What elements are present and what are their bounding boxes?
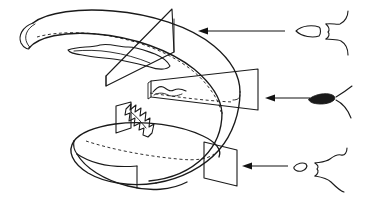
wavy-strip-outline <box>68 44 170 69</box>
jagged-inner-line <box>131 112 146 128</box>
tube-axis-dashed-lower <box>86 141 214 160</box>
cross-section-middle-wall-upper <box>336 86 352 97</box>
helix-outer-right <box>156 92 240 183</box>
tube-axis-dashed-middle <box>150 93 233 102</box>
spiral-tube <box>20 10 240 189</box>
helix-lower-left-wall <box>74 141 77 154</box>
helix-lower-top-ellipse <box>74 123 220 157</box>
plane-middle[interactable] <box>148 69 258 110</box>
tube-top-outer-edge <box>33 10 240 92</box>
arrow-middle <box>265 95 310 102</box>
inclusion-upper <box>68 44 170 69</box>
cross-section-middle <box>309 86 352 118</box>
cross-section-lower <box>294 148 347 192</box>
diagram-canvas <box>0 0 371 203</box>
cross-section-upper-lumen <box>296 26 321 37</box>
arrow-lower <box>242 163 288 170</box>
tube-axis-dashed-upper <box>37 33 221 112</box>
cross-section-upper-wall-lower <box>326 39 348 55</box>
cross-section-lower-wall-lower <box>315 176 344 192</box>
cross-section-lower-oval <box>294 163 307 171</box>
arrow-upper <box>198 28 285 35</box>
inclusion-lower <box>125 104 154 137</box>
cross-section-lower-notch <box>315 163 318 176</box>
cross-section-upper <box>296 11 348 55</box>
arrow-lower-head <box>242 163 252 170</box>
arrow-upper-head <box>198 28 208 35</box>
arrow-middle-head <box>265 95 275 102</box>
cross-section-upper-bracket-left <box>326 24 329 39</box>
tube-top-inner-edge <box>29 33 222 113</box>
helix-inner-right <box>149 113 222 181</box>
cross-section-upper-wall-upper <box>326 11 348 24</box>
wavy-crest-outline <box>153 87 186 92</box>
cross-section-lower-wall-upper <box>315 148 347 163</box>
cross-section-middle-wall-lower <box>336 100 351 118</box>
helix-rear-arc <box>233 95 240 100</box>
wavy-strip-inner-line <box>74 50 150 63</box>
figure-root: Helical tube with three serial section p… <box>0 0 371 203</box>
inclusion-middle <box>153 87 186 96</box>
